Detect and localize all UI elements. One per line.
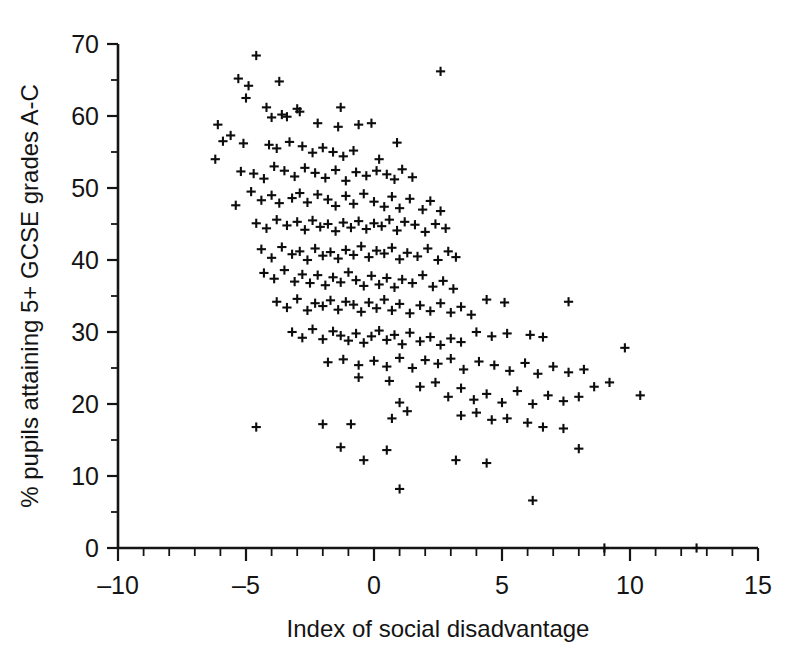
scatter-point [290, 172, 299, 181]
scatter-point [239, 139, 248, 148]
scatter-point [367, 332, 376, 341]
scatter-point [313, 119, 322, 128]
scatter-point [439, 276, 448, 285]
scatter-point [331, 201, 340, 210]
scatter-point [415, 382, 424, 391]
scatter-point [359, 338, 368, 347]
scatter-point [398, 275, 407, 284]
scatter-point [405, 328, 414, 337]
scatter-point [392, 138, 401, 147]
scatter-point [270, 162, 279, 171]
scatter-point [339, 218, 348, 227]
scatter-point [467, 310, 476, 319]
scatter-point [359, 281, 368, 290]
scatter-point [418, 205, 427, 214]
scatter-point [456, 302, 465, 311]
y-tick-label: 40 [71, 246, 99, 274]
scatter-point [311, 168, 320, 177]
scatter-point [211, 155, 220, 164]
scatter-point [308, 216, 317, 225]
scatter-point [403, 248, 412, 257]
scatter-point [267, 191, 276, 200]
scatter-point [395, 255, 404, 264]
scatter-point [244, 81, 253, 90]
scatter-point [579, 365, 588, 374]
scatter-point [298, 333, 307, 342]
scatter-point [559, 397, 568, 406]
scatter-point [421, 227, 430, 236]
scatter-point [323, 358, 332, 367]
scatter-point [213, 120, 222, 129]
scatter-point [382, 335, 391, 344]
scatter-point [328, 273, 337, 282]
scatter-point [431, 219, 440, 228]
scatter-point [487, 415, 496, 424]
scatter-point [295, 188, 304, 197]
scatter-point [275, 199, 284, 208]
scatter-point [241, 93, 250, 102]
scatter-point [331, 227, 340, 236]
scatter-point [326, 296, 335, 305]
scatter-point [472, 408, 481, 417]
scatter-point [341, 245, 350, 254]
scatter-point [520, 358, 529, 367]
scatter-point [590, 382, 599, 391]
scatter-point [372, 166, 381, 175]
scatter-point [300, 163, 309, 172]
scatter-point [395, 353, 404, 362]
scatter-point [367, 271, 376, 280]
scatter-point [349, 199, 358, 208]
scatter-point [400, 217, 409, 226]
scatter-point [328, 327, 337, 336]
scatter-point [436, 340, 445, 349]
scatter-point [490, 361, 499, 370]
scatter-point [328, 147, 337, 156]
scatter-point [482, 295, 491, 304]
scatter-point [482, 389, 491, 398]
x-tick-label: –5 [232, 571, 260, 599]
scatter-point [349, 146, 358, 155]
scatter-point [336, 443, 345, 452]
scatter-point [280, 166, 289, 175]
scatter-point [390, 175, 399, 184]
scatter-point [538, 332, 547, 341]
y-tick-label: 20 [71, 390, 99, 418]
y-axis-ticks [107, 44, 118, 548]
scatter-point [287, 327, 296, 336]
scatter-point [543, 391, 552, 400]
scatter-point [382, 445, 391, 454]
scatter-point [574, 392, 583, 401]
scatter-point [318, 143, 327, 152]
scatter-point [359, 456, 368, 465]
scatter-point [346, 223, 355, 232]
y-tick-label: 10 [71, 462, 99, 490]
scatter-point [259, 174, 268, 183]
scatter-point [290, 277, 299, 286]
scatter-point [382, 362, 391, 371]
scatter-point [354, 361, 363, 370]
scatter-point [385, 215, 394, 224]
scatter-point [298, 142, 307, 151]
scatter-point [549, 362, 558, 371]
scatter-point [413, 252, 422, 261]
scatter-point [308, 325, 317, 334]
scatter-point [282, 221, 291, 230]
scatter-point [390, 330, 399, 339]
scatter-point [436, 299, 445, 308]
scatter-point [428, 282, 437, 291]
scatter-point [387, 243, 396, 252]
scatter-point [564, 368, 573, 377]
scatter-point [375, 280, 384, 289]
scatter-point [500, 298, 509, 307]
scatter-point [526, 330, 535, 339]
scatter-point [236, 167, 245, 176]
scatter-point [385, 376, 394, 385]
y-tick-label: 70 [71, 30, 99, 58]
scatter-point [395, 204, 404, 213]
scatter-point [257, 196, 266, 205]
scatter-point [444, 392, 453, 401]
scatter-point [344, 268, 353, 277]
x-tick-label: 10 [616, 571, 644, 599]
scatter-point [433, 359, 442, 368]
scatter-point [282, 112, 291, 121]
